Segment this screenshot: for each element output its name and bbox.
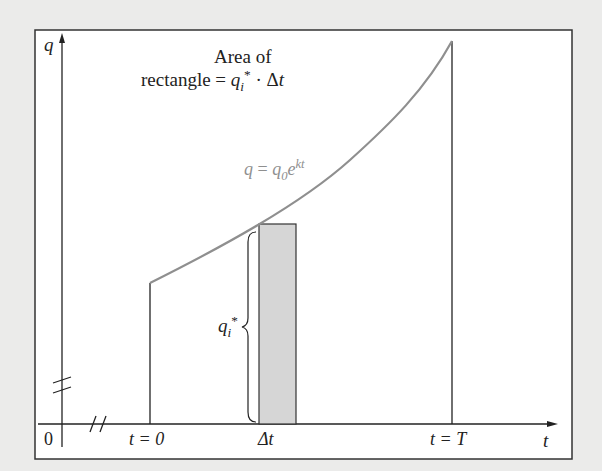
area-title-prefix: rectangle = [141, 69, 231, 90]
curve-label-q0: q [272, 159, 281, 179]
height-label: qi* [218, 316, 238, 335]
origin-label: 0 [44, 430, 53, 448]
riemann-rectangle [259, 224, 296, 424]
area-title-line1: Area of [214, 47, 272, 66]
diagram-canvas [0, 0, 602, 471]
curve-equation-label: q = q0ekt [244, 160, 305, 178]
height-label-q: q [218, 315, 228, 336]
area-title-line2: rectangle = qi* · Δt [141, 70, 284, 89]
x-axis-label: t [543, 431, 548, 450]
tick-label-delta-t: Δt [258, 430, 274, 448]
frame-border [35, 30, 572, 459]
area-title-dot-delta: · Δ [251, 69, 279, 90]
tick-label-t-T: t = T [430, 430, 466, 448]
area-title-t: t [279, 69, 284, 90]
curve-label-equals: = [253, 159, 272, 179]
curve-label-q: q [244, 159, 253, 179]
area-title-q: q [231, 69, 241, 90]
curve-label-exponent: kt [295, 157, 304, 171]
area-title-q-sup: * [244, 67, 251, 82]
tick-label-t-zero: t = 0 [129, 430, 164, 448]
y-axis-label: q [44, 35, 54, 54]
height-label-sup: * [231, 313, 238, 328]
